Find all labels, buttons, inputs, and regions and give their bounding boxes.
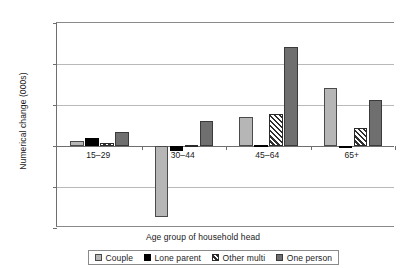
bar-lone-parent [254,145,268,147]
x-axis-tick-label: 45–64 [255,150,279,160]
legend-label: Other multi [223,253,266,263]
legend-item-other-multi[interactable]: Other multi [212,253,265,263]
bar-couple [324,88,338,146]
y-axis-title: Numerical change (000s) [18,36,28,206]
bar-one-person [284,47,298,146]
bar-lone-parent [85,138,99,146]
legend-label: One person [287,253,332,263]
bar-group [142,23,227,226]
bar-one-person [115,132,129,146]
bar-other-multi [354,128,368,146]
legend-item-couple[interactable]: Couple [95,253,133,263]
bar-couple [239,117,253,146]
bar-couple [70,141,84,146]
y-axis-tick-mark [53,228,57,229]
bar-one-person [200,121,214,146]
bar-group [311,23,396,226]
legend-item-lone-parent[interactable]: Lone parent [144,253,201,263]
plot-area [56,22,394,227]
legend-label: Couple [106,253,134,263]
bar-other-multi [100,143,114,146]
swatch-couple-icon [95,254,102,261]
swatch-other-multi-icon [212,254,219,261]
bar-group [57,23,142,226]
bar-other-multi [269,114,283,146]
swatch-lone-parent-icon [144,254,151,261]
bar-lone-parent [339,146,353,148]
legend-item-one-person[interactable]: One person [276,253,332,263]
chart-legend: CoupleLone parentOther multiOne person [88,250,339,265]
x-axis-tick-label: 15–29 [86,150,110,160]
bar-other-multi [185,145,199,147]
x-axis-tick-label: 65+ [344,150,359,160]
bar-couple [155,146,169,217]
swatch-one-person-icon [276,254,283,261]
x-axis-tick-mark [395,146,396,150]
x-axis-tick-label: 30–44 [171,150,195,160]
bar-group [226,23,311,226]
x-axis-title: Age group of household head [0,232,406,242]
bar-one-person [369,100,383,146]
legend-label: Lone parent [155,253,201,263]
bar-chart: Numerical change (000s) 1,5001,0005000-5… [0,0,406,268]
